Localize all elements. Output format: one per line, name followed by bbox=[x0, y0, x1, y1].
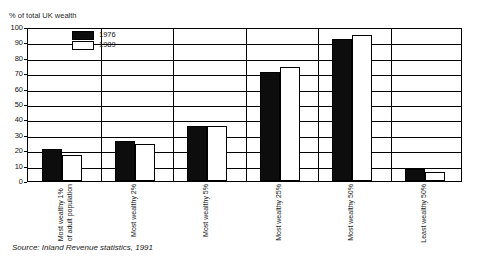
bar-1976-2[interactable] bbox=[187, 126, 207, 181]
x-axis-label-4: Most wealthy 50% bbox=[347, 184, 356, 241]
legend-item-1989[interactable]: 1989 bbox=[72, 40, 116, 50]
y-tick-label-90: 90 bbox=[0, 39, 23, 46]
y-tick-label-20: 20 bbox=[0, 147, 23, 154]
x-axis-label-5: Least wealthy 50% bbox=[420, 184, 429, 243]
x-axis-label-1: Most wealthy 2% bbox=[130, 184, 139, 237]
y-tick-label-100: 100 bbox=[0, 24, 23, 31]
bar-group bbox=[173, 29, 246, 181]
bar-group bbox=[246, 29, 319, 181]
legend-label-1989: 1989 bbox=[99, 41, 116, 49]
y-tick-label-60: 60 bbox=[0, 86, 23, 93]
x-axis-label-0: Most wealthy 1%of adult population bbox=[57, 184, 74, 241]
y-tick-label-80: 80 bbox=[0, 55, 23, 62]
legend-item-1976[interactable]: 1976 bbox=[72, 30, 116, 40]
bar-1976-3[interactable] bbox=[260, 72, 280, 181]
bar-1989-4[interactable] bbox=[352, 35, 372, 181]
y-tick-label-0: 0 bbox=[0, 178, 23, 185]
y-tick-label-30: 30 bbox=[0, 132, 23, 139]
chart-legend: 19761989 bbox=[72, 30, 182, 52]
bar-1989-3[interactable] bbox=[280, 67, 300, 181]
y-tick-label-10: 10 bbox=[0, 163, 23, 170]
bar-1989-1[interactable] bbox=[135, 144, 155, 181]
legend-swatch-1989 bbox=[72, 41, 94, 50]
bar-1976-0[interactable] bbox=[42, 149, 62, 181]
source-note: Source: Inland Revenue statistics, 1991 bbox=[12, 243, 153, 252]
bar-group bbox=[391, 29, 464, 181]
legend-swatch-1976 bbox=[72, 31, 94, 40]
bar-group bbox=[318, 29, 391, 181]
bar-1976-5[interactable] bbox=[405, 169, 425, 181]
legend-label-1976: 1976 bbox=[99, 31, 116, 39]
bar-1989-5[interactable] bbox=[425, 172, 445, 181]
x-axis-labels: Most wealthy 1%of adult populationMost w… bbox=[27, 184, 462, 244]
bar-1989-0[interactable] bbox=[62, 155, 82, 181]
x-axis-label-3: Most wealthy 25% bbox=[275, 184, 284, 241]
y-axis-title: % of total UK wealth bbox=[9, 11, 77, 20]
bar-1976-4[interactable] bbox=[332, 39, 352, 181]
y-tick-label-40: 40 bbox=[0, 116, 23, 123]
bar-1976-1[interactable] bbox=[115, 141, 135, 181]
x-axis-label-2: Most wealthy 5% bbox=[202, 184, 211, 237]
y-tick-mark-0 bbox=[24, 182, 27, 183]
y-tick-label-50: 50 bbox=[0, 101, 23, 108]
page-caption-strip bbox=[8, 0, 428, 6]
bar-1989-2[interactable] bbox=[207, 126, 227, 181]
y-tick-label-70: 70 bbox=[0, 70, 23, 77]
